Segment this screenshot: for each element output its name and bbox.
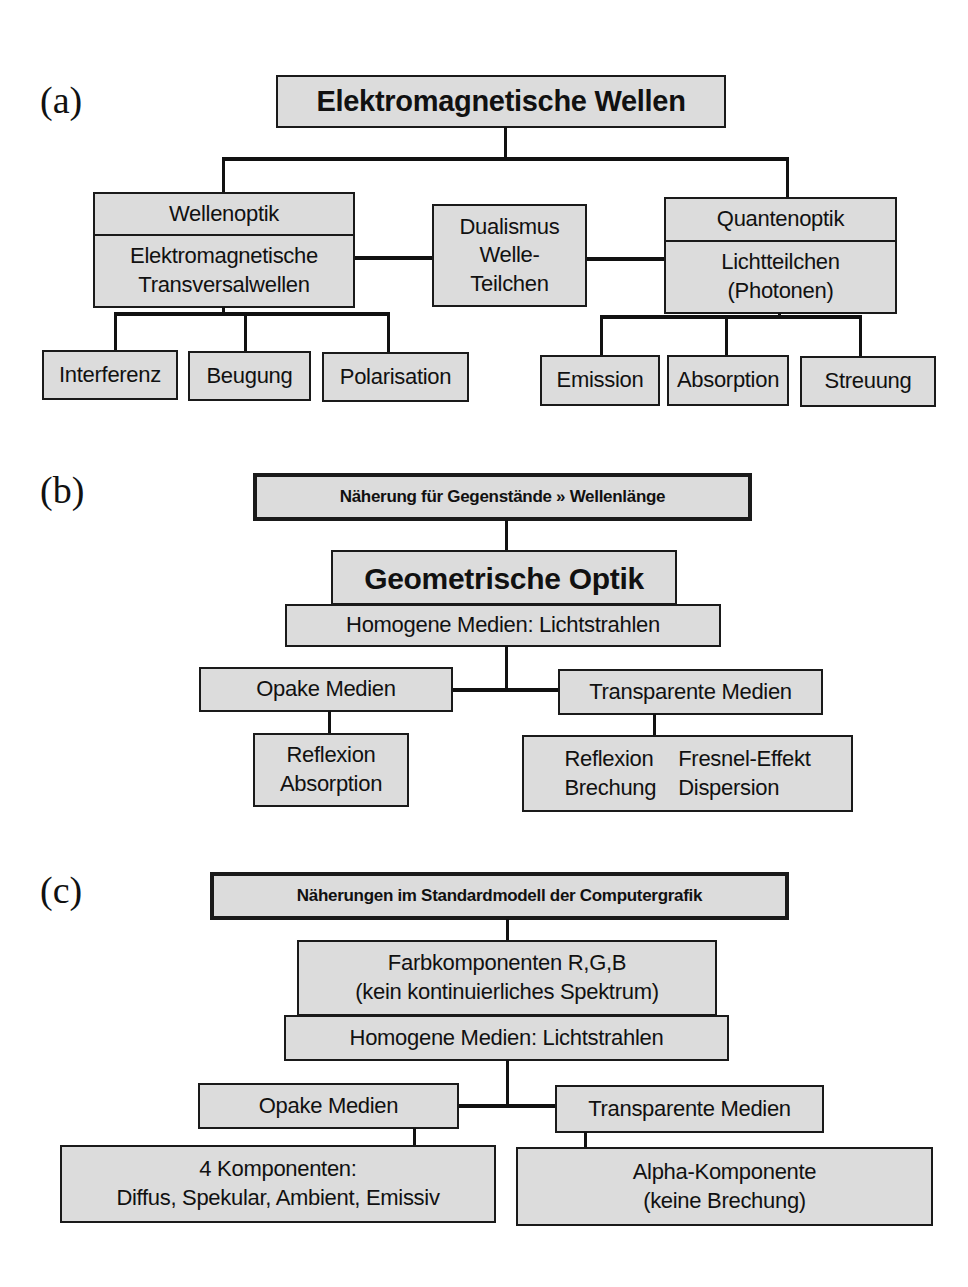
panel-label-c: (c) <box>40 868 82 912</box>
connector <box>504 127 507 159</box>
connector <box>457 1104 557 1108</box>
panel-label-b: (b) <box>40 468 84 512</box>
connector <box>600 315 603 356</box>
effect-text: Reflexion <box>564 745 656 774</box>
node-approximation-c: Näherungen im Standardmodell der Compute… <box>210 872 789 920</box>
leaf-text: Polarisation <box>340 363 451 392</box>
node-homogeneous-media-b: Homogene Medien: Lichtstrahlen <box>285 604 721 647</box>
effect-text: Reflexion <box>286 741 375 770</box>
connector <box>114 312 117 351</box>
node-opaque-effects-b: Reflexion Absorption <box>253 733 409 807</box>
connector <box>222 157 225 193</box>
effect-text: Absorption <box>280 770 382 799</box>
opaque-title: Opake Medien <box>259 1092 399 1121</box>
node-absorption: Absorption <box>667 355 789 406</box>
connector <box>505 520 508 551</box>
node-title: Wellenoptik <box>95 194 353 236</box>
effect-text: Brechung <box>564 774 656 803</box>
effect-text: Alpha-Komponente <box>633 1158 817 1187</box>
leaf-text: Emission <box>557 366 644 395</box>
connector <box>786 157 789 198</box>
leaf-text: Streuung <box>825 367 912 396</box>
connector <box>114 312 390 316</box>
geometric-optics-title: Geometrische Optik <box>364 559 644 598</box>
transparent-title: Transparente Medien <box>588 1095 791 1124</box>
node-title: Quantenoptik <box>666 199 895 242</box>
transparent-title: Transparente Medien <box>589 678 792 707</box>
node-geometric-optics: Geometrische Optik <box>331 550 677 605</box>
media-text: Homogene Medien: Lichtstrahlen <box>346 611 660 640</box>
leaf-text: Absorption <box>677 366 779 395</box>
node-wave-optics: Wellenoptik Elektromagnetische Transvers… <box>93 192 355 308</box>
connector <box>387 312 390 353</box>
node-scattering: Streuung <box>800 356 936 407</box>
node-transparent-effects-b: Reflexion Brechung Fresnel-Effekt Disper… <box>522 735 853 812</box>
effects-col-1: Reflexion Brechung <box>564 745 656 802</box>
leaf-text: Beugung <box>207 362 293 391</box>
opaque-title: Opake Medien <box>256 675 396 704</box>
color-line: Farbkomponenten R,G,B <box>388 949 626 978</box>
connector <box>413 1128 416 1146</box>
duality-line: Welle- <box>479 241 539 270</box>
node-color-components: Farbkomponenten R,G,B (kein kontinuierli… <box>297 940 717 1016</box>
media-text: Homogene Medien: Lichtstrahlen <box>350 1024 664 1053</box>
connector <box>506 1060 509 1106</box>
node-interference: Interferenz <box>42 350 178 400</box>
node-quantum-optics: Quantenoptik Lichtteilchen (Photonen) <box>664 197 897 314</box>
effect-text: (keine Brechung) <box>643 1187 806 1216</box>
quantum-optics-title: Quantenoptik <box>717 205 844 234</box>
node-duality: Dualismus Welle- Teilchen <box>432 204 587 307</box>
connector <box>328 711 331 734</box>
duality-line: Teilchen <box>470 270 548 299</box>
node-opaque-media-b: Opake Medien <box>199 667 453 712</box>
connector <box>859 315 862 357</box>
effect-text: Diffus, Spekular, Ambient, Emissiv <box>116 1184 439 1213</box>
effect-text: 4 Komponenten: <box>199 1155 356 1184</box>
effects-columns: Reflexion Brechung Fresnel-Effekt Disper… <box>564 745 810 802</box>
node-approximation-b: Näherung für Gegenstände » Wellenlänge <box>253 473 752 521</box>
connector <box>600 315 862 319</box>
approximation-text: Näherung für Gegenstände » Wellenlänge <box>340 486 666 508</box>
connector <box>585 257 665 261</box>
node-transparent-media-c: Transparente Medien <box>555 1085 824 1133</box>
connector <box>353 256 433 260</box>
connector <box>725 315 728 356</box>
panel-label-a: (a) <box>40 78 82 122</box>
node-opaque-media-c: Opake Medien <box>198 1083 459 1129</box>
node-body: Lichtteilchen (Photonen) <box>666 242 895 312</box>
connector <box>244 312 247 351</box>
connector <box>584 1132 587 1148</box>
connector <box>506 919 509 941</box>
node-alpha-component: Alpha-Komponente (keine Brechung) <box>516 1147 933 1226</box>
root-text: Elektromagnetische Wellen <box>316 83 685 121</box>
body-line: (Photonen) <box>728 277 834 306</box>
body-line: Elektromagnetische <box>130 242 318 271</box>
effects-col-2: Fresnel-Effekt Dispersion <box>678 745 810 802</box>
effect-text: Dispersion <box>678 774 810 803</box>
root-node-em-waves: Elektromagnetische Wellen <box>276 75 726 128</box>
wave-optics-title: Wellenoptik <box>169 200 279 229</box>
body-line: Lichtteilchen <box>721 248 839 277</box>
effect-text: Fresnel-Effekt <box>678 745 810 774</box>
node-polarisation: Polarisation <box>322 352 469 402</box>
node-emission: Emission <box>540 355 660 406</box>
leaf-text: Interferenz <box>59 361 161 390</box>
approximation-text: Näherungen im Standardmodell der Compute… <box>297 885 702 907</box>
node-homogeneous-media-c: Homogene Medien: Lichtstrahlen <box>284 1015 729 1061</box>
node-body: Elektromagnetische Transversalwellen <box>95 236 353 306</box>
duality-line: Dualismus <box>460 213 560 242</box>
connector <box>505 646 508 691</box>
connector <box>222 157 789 161</box>
body-line: Transversalwellen <box>138 271 309 300</box>
connector <box>451 688 559 692</box>
node-diffraction: Beugung <box>188 351 311 401</box>
node-transparent-media-b: Transparente Medien <box>558 669 823 715</box>
node-opaque-components: 4 Komponenten: Diffus, Spekular, Ambient… <box>60 1145 496 1223</box>
color-line: (kein kontinuierliches Spektrum) <box>355 978 658 1007</box>
connector <box>653 714 656 736</box>
